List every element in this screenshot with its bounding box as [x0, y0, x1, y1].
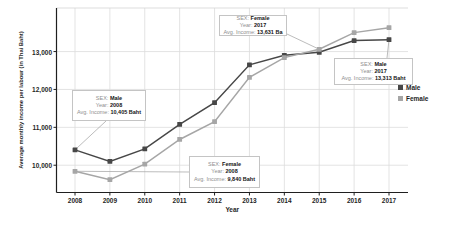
- x-tick-label: 2014: [277, 197, 291, 204]
- annotation-male-2017: SEX: MaleYear: 2017Avg. Income: 13,313 B…: [334, 58, 413, 85]
- legend-label-female: Female: [406, 95, 428, 102]
- annotation-male-2008: SEX: MaleYear: 2008Avg. Income: 10,405 B…: [72, 90, 146, 121]
- annotation-row: SEX: Female: [190, 161, 259, 168]
- legend-label-male: Male: [406, 84, 420, 91]
- annotation-row: Year: 2017: [220, 22, 286, 29]
- x-axis-title: Year: [225, 206, 239, 213]
- x-tick-label: 2015: [312, 197, 326, 204]
- annotation-row: Avg. Income: 9,840 Baht: [190, 176, 259, 183]
- y-tick-label: 11,000: [32, 124, 52, 131]
- y-tick-label: 12,000: [32, 86, 52, 93]
- x-tick-label: 2013: [242, 197, 256, 204]
- legend-item-female: Female: [398, 95, 428, 102]
- annotation-row: Year: 2017: [335, 68, 412, 75]
- annotation-row: SEX: Female: [220, 15, 286, 22]
- legend-item-male: Male: [398, 84, 428, 91]
- x-tick-label: 2017: [382, 197, 396, 204]
- y-axis-title: Average monthly income per labour (in Th…: [18, 32, 24, 169]
- annotation-female-2008: SEX: FemaleYear: 2008Avg. Income: 9,840 …: [189, 156, 260, 188]
- male-series-swatch-icon: [398, 85, 403, 90]
- x-tick-label: 2012: [207, 197, 221, 204]
- annotation-row: Avg. Income: 10,405 Baht: [73, 109, 145, 116]
- y-tick-label: 13,000: [32, 48, 52, 55]
- legend: Male Female: [398, 84, 428, 102]
- x-tick-label: 2009: [103, 197, 117, 204]
- chart-figure: Average monthly income per labour (in Th…: [0, 0, 457, 225]
- x-tick-label: 2016: [347, 197, 361, 204]
- annotation-row: Year: 2008: [190, 168, 259, 175]
- x-tick-label: 2010: [138, 197, 152, 204]
- y-tick-label: 10,000: [32, 162, 52, 169]
- annotation-row: SEX: Male: [73, 95, 145, 102]
- annotation-row: SEX: Male: [335, 61, 412, 68]
- annotation-row: Avg. Income: 13,631 Ba: [220, 29, 286, 36]
- x-tick-label: 2008: [68, 197, 82, 204]
- x-tick-label: 2011: [173, 197, 187, 204]
- annotation-female-2017: SEX: FemaleYear: 2017Avg. Income: 13,631…: [219, 15, 287, 36]
- annotation-row: Avg. Income: 13,313 Baht: [335, 75, 412, 82]
- annotation-row: Year: 2008: [73, 102, 145, 109]
- female-series-swatch-icon: [398, 96, 403, 101]
